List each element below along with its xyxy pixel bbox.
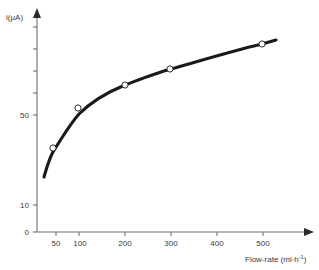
x-tick-label-400: 400 bbox=[210, 239, 224, 248]
data-point-2[interactable] bbox=[75, 105, 81, 111]
y-axis-title: i(μA) bbox=[6, 13, 23, 22]
y-axis-arrow-icon bbox=[33, 8, 41, 18]
data-point-5[interactable] bbox=[259, 41, 265, 47]
x-tick-label-100: 100 bbox=[73, 239, 87, 248]
x-tick-label-300: 300 bbox=[164, 239, 178, 248]
data-point-1[interactable] bbox=[50, 145, 56, 151]
x-tick-label-500: 500 bbox=[256, 239, 270, 248]
y-tick-label-10: 10 bbox=[20, 201, 29, 210]
x-axis-title: Flow-rate (ml·h-1) bbox=[245, 254, 307, 264]
y-tick-label-0: 0 bbox=[25, 228, 30, 237]
data-point-markers bbox=[50, 41, 265, 151]
data-point-3[interactable] bbox=[122, 82, 128, 88]
x-axis-title-close: ) bbox=[304, 255, 307, 264]
y-tick-marks bbox=[33, 27, 37, 232]
x-tick-marks bbox=[56, 232, 263, 236]
x-tick-label-50: 50 bbox=[52, 239, 61, 248]
x-axis-arrow-icon bbox=[304, 228, 314, 236]
y-tick-label-50: 50 bbox=[20, 111, 29, 120]
chart-canvas: 50 10 0 50 100 200 300 400 500 i(μA) Flo… bbox=[0, 0, 319, 270]
x-axis-title-main: Flow-rate (ml·h bbox=[245, 255, 299, 264]
data-point-4[interactable] bbox=[167, 66, 173, 72]
chart-figure: 50 10 0 50 100 200 300 400 500 i(μA) Flo… bbox=[0, 0, 319, 270]
x-tick-label-200: 200 bbox=[118, 239, 132, 248]
